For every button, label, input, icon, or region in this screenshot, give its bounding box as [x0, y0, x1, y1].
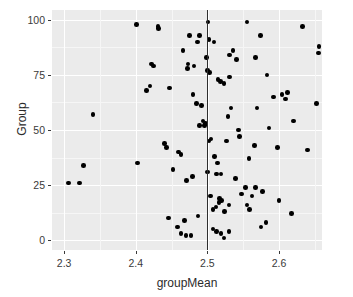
data-point: [250, 194, 255, 199]
y-tick-label: 75: [15, 70, 45, 81]
data-point: [208, 194, 213, 199]
x-tick-label: 2.6: [259, 258, 299, 269]
data-point: [187, 33, 192, 38]
gridline-horizontal-minor: [52, 158, 322, 159]
data-point: [236, 128, 241, 133]
data-point: [247, 207, 252, 212]
data-point: [151, 64, 156, 69]
x-tick-mark: [279, 251, 280, 254]
data-point: [314, 101, 319, 106]
data-point: [245, 20, 250, 25]
gridline-horizontal-minor: [52, 102, 322, 103]
gridline-vertical-minor: [243, 10, 244, 250]
data-point: [190, 174, 195, 179]
gridline-horizontal-minor: [52, 213, 322, 214]
data-point: [134, 22, 139, 27]
data-point: [196, 214, 201, 219]
gridline-horizontal: [52, 240, 322, 241]
data-point: [277, 198, 282, 203]
data-point: [166, 216, 171, 221]
data-point: [227, 203, 232, 208]
x-tick-label: 2.5: [187, 258, 227, 269]
data-point: [226, 114, 231, 119]
data-point: [77, 181, 82, 186]
data-point: [144, 88, 149, 93]
data-point: [237, 134, 242, 139]
data-point: [215, 161, 220, 166]
data-point: [195, 40, 200, 45]
x-tick-mark: [136, 251, 137, 254]
data-point: [305, 148, 310, 153]
gridline-horizontal: [52, 20, 322, 21]
data-point: [199, 103, 204, 108]
data-point: [219, 172, 224, 177]
data-point: [197, 123, 202, 128]
data-point: [164, 145, 169, 150]
y-tick-mark: [48, 75, 51, 76]
data-point: [252, 143, 257, 148]
data-point: [179, 231, 184, 236]
y-tick-mark: [48, 130, 51, 131]
data-point: [233, 176, 238, 181]
gridline-vertical-minor: [172, 10, 173, 250]
data-point: [243, 185, 248, 190]
data-point: [191, 92, 196, 97]
data-point: [192, 64, 197, 69]
data-point: [259, 225, 264, 230]
data-point: [258, 33, 263, 38]
data-point: [186, 62, 191, 67]
gridline-vertical: [64, 10, 65, 250]
data-point: [148, 84, 153, 89]
data-point: [227, 53, 232, 58]
gridline-horizontal: [52, 185, 322, 186]
gridline-vertical-minor: [100, 10, 101, 250]
y-tick-mark: [48, 20, 51, 21]
x-tick-label: 2.4: [116, 258, 156, 269]
y-tick-mark: [48, 240, 51, 241]
data-point: [181, 48, 186, 53]
data-point: [283, 97, 288, 102]
data-point: [209, 137, 214, 142]
data-point: [81, 163, 86, 168]
data-point: [227, 75, 232, 80]
y-axis-title: Group: [15, 79, 29, 159]
data-point: [222, 209, 227, 214]
data-point: [184, 178, 189, 183]
data-point: [185, 66, 190, 71]
x-tick-mark: [64, 251, 65, 254]
gridline-vertical: [136, 10, 137, 250]
y-tick-label: 50: [15, 125, 45, 136]
gridline-vertical: [279, 10, 280, 250]
data-point: [189, 233, 194, 238]
data-point: [222, 81, 227, 86]
gridline-vertical-minor: [315, 10, 316, 250]
data-point: [260, 189, 265, 194]
gridline-horizontal: [52, 75, 322, 76]
data-point: [212, 40, 217, 45]
y-tick-label: 100: [15, 15, 45, 26]
data-point: [224, 139, 229, 144]
data-point: [275, 145, 280, 150]
x-tick-label: 2.3: [44, 258, 84, 269]
data-point: [253, 55, 258, 60]
data-point: [227, 229, 232, 234]
data-point: [317, 44, 322, 49]
data-point: [231, 48, 236, 53]
data-point: [285, 90, 290, 95]
data-point: [179, 152, 184, 157]
data-point: [300, 24, 305, 29]
data-point: [171, 167, 176, 172]
y-tick-label: 0: [15, 235, 45, 246]
gridline-horizontal-minor: [52, 47, 322, 48]
data-point: [135, 161, 140, 166]
data-point: [255, 106, 260, 111]
scatter-plot-figure: Group 0255075100 2.32.42.52.6 groupMean: [0, 0, 353, 297]
y-tick-label: 25: [15, 180, 45, 191]
data-point: [253, 185, 258, 190]
data-point: [239, 192, 244, 197]
plot-panel: [52, 10, 322, 250]
data-point: [271, 95, 276, 100]
data-point: [291, 119, 296, 124]
data-point: [91, 112, 96, 117]
data-point: [212, 154, 217, 159]
